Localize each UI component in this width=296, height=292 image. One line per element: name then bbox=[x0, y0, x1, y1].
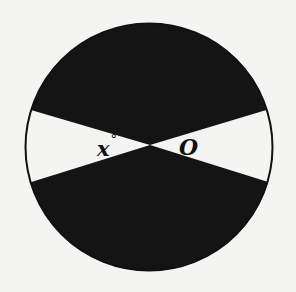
angle-variable: x bbox=[97, 136, 110, 161]
circle-diagram: x° O bbox=[0, 0, 296, 292]
angle-label: x° bbox=[97, 137, 117, 159]
degree-symbol: ° bbox=[111, 132, 118, 147]
diagram-canvas bbox=[0, 0, 296, 292]
center-label: O bbox=[179, 136, 198, 158]
